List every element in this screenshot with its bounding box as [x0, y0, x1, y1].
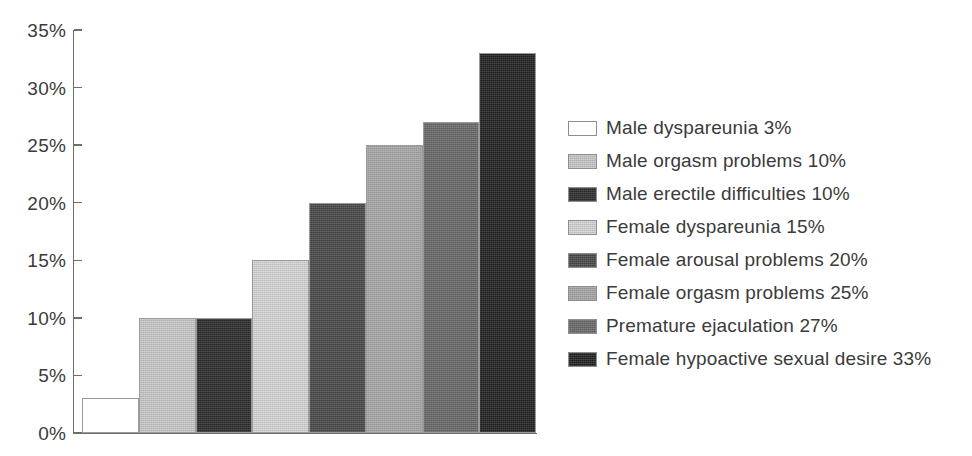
legend-swatch-female-arousal-problems	[568, 253, 597, 268]
legend-label: Female dyspareunia 15%	[606, 217, 825, 238]
legend-label: Male orgasm problems 10%	[606, 151, 846, 172]
legend-row: Female arousal problems 20%	[568, 244, 972, 277]
bar-male-orgasm-problems	[139, 318, 196, 433]
legend-row: Male erectile difficulties 10%	[568, 178, 972, 211]
y-axis-tick-mark	[74, 317, 82, 318]
y-axis-tick-label: 25%	[8, 136, 66, 155]
legend-label: Male erectile difficulties 10%	[606, 184, 850, 205]
y-axis-tick-label: 10%	[8, 308, 66, 327]
bar-female-orgasm-problems	[366, 145, 423, 433]
y-axis-tick-label: 5%	[8, 366, 66, 385]
bar-male-erectile-difficulties	[196, 318, 253, 433]
bar-male-dyspareunia	[82, 398, 139, 433]
legend-swatch-female-dyspareunia	[568, 220, 597, 235]
legend-label: Female hypoactive sexual desire 33%	[606, 349, 931, 370]
legend-label: Premature ejaculation 27%	[606, 316, 838, 337]
y-axis-line	[73, 30, 74, 433]
legend-swatch-female-hypoactive-sexual-desire	[568, 352, 597, 367]
bar-group	[82, 0, 536, 456]
legend-row: Male orgasm problems 10%	[568, 145, 972, 178]
legend-row: Female hypoactive sexual desire 33%	[568, 343, 972, 376]
plot-area: 0%5%10%15%20%25%30%35%	[0, 0, 556, 456]
y-axis-tick-mark	[74, 260, 82, 261]
legend-row: Female orgasm problems 25%	[568, 277, 972, 310]
y-axis-tick-mark	[74, 375, 82, 376]
legend-label: Female orgasm problems 25%	[606, 283, 869, 304]
legend-row: Premature ejaculation 27%	[568, 310, 972, 343]
legend-swatch-male-dyspareunia	[568, 121, 597, 136]
chart-legend: Male dyspareunia 3%Male orgasm problems …	[568, 112, 972, 376]
y-axis-tick-label: 30%	[8, 78, 66, 97]
y-axis-tick-mark	[74, 432, 82, 433]
bar-chart-figure: 0%5%10%15%20%25%30%35% Male dyspareunia …	[0, 0, 972, 456]
legend-swatch-male-orgasm-problems	[568, 154, 597, 169]
legend-swatch-male-erectile-difficulties	[568, 187, 597, 202]
y-axis-tick-mark	[74, 202, 82, 203]
y-axis-tick-label: 0%	[8, 424, 66, 443]
y-axis-tick-label: 20%	[8, 193, 66, 212]
legend-swatch-premature-ejaculation	[568, 319, 597, 334]
legend-label: Male dyspareunia 3%	[606, 118, 792, 139]
y-axis-tick-label: 35%	[8, 21, 66, 40]
bar-premature-ejaculation	[423, 122, 480, 433]
legend-row: Male dyspareunia 3%	[568, 112, 972, 145]
y-axis-tick-mark	[74, 87, 82, 88]
bar-female-dyspareunia	[252, 260, 309, 433]
legend-swatch-female-orgasm-problems	[568, 286, 597, 301]
bar-female-hypoactive-sexual-desire	[479, 53, 536, 433]
legend-label: Female arousal problems 20%	[606, 250, 868, 271]
y-axis-tick-label: 15%	[8, 251, 66, 270]
y-axis-tick-mark	[74, 29, 82, 30]
legend-row: Female dyspareunia 15%	[568, 211, 972, 244]
bar-female-arousal-problems	[309, 203, 366, 433]
y-axis-tick-mark	[74, 144, 82, 145]
